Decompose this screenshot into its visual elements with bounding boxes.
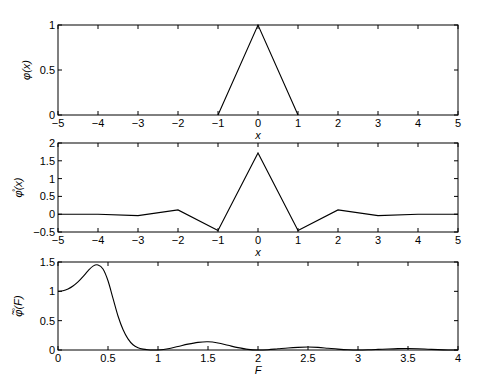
x-tick-label: 4 bbox=[415, 117, 421, 129]
x-tick-label: 1 bbox=[295, 234, 301, 246]
axes-frame bbox=[58, 143, 458, 232]
x-tick-label: −4 bbox=[92, 117, 105, 129]
x-tick-label: 0 bbox=[255, 234, 261, 246]
series-line-phi bbox=[218, 25, 298, 115]
x-axis-label: x bbox=[254, 129, 261, 141]
x-tick-label: 3 bbox=[355, 352, 361, 364]
x-tick-label: 1 bbox=[295, 117, 301, 129]
series-line-phi-ring-tilde bbox=[58, 265, 458, 350]
y-axis-label: φ̊(x) bbox=[12, 177, 24, 197]
y-tick-label: 0 bbox=[49, 344, 55, 356]
y-tick-label: 0.5 bbox=[40, 315, 55, 327]
y-tick-label: 1.5 bbox=[40, 155, 55, 167]
y-tick-label: 1 bbox=[49, 173, 55, 185]
y-tick-label: 0 bbox=[49, 109, 55, 121]
y-axis-label: φ̊̃(F) bbox=[12, 295, 24, 317]
x-tick-label: 0 bbox=[255, 117, 261, 129]
subplot-phi: −5−4−3−2−101234500.51xφ(x) bbox=[20, 19, 461, 141]
x-tick-label: 5 bbox=[455, 117, 461, 129]
y-tick-label: 1.5 bbox=[40, 256, 55, 268]
x-tick-label: 3.5 bbox=[400, 352, 415, 364]
subplot-phi-ring-tilde: 00.511.522.533.5400.511.5Fφ̊̃(F) bbox=[12, 256, 461, 376]
x-tick-label: −1 bbox=[212, 234, 225, 246]
x-tick-label: −3 bbox=[132, 234, 145, 246]
x-tick-label: 2.5 bbox=[300, 352, 315, 364]
x-tick-label: 5 bbox=[455, 234, 461, 246]
y-tick-label: 0 bbox=[49, 208, 55, 220]
y-tick-label: 2 bbox=[49, 137, 55, 149]
x-tick-label: 4 bbox=[415, 234, 421, 246]
subplot-phi-ring: −5−4−3−2−1012345−0.500.511.52xφ̊(x) bbox=[12, 137, 461, 258]
x-axis-label: F bbox=[255, 364, 263, 376]
series-line-phi-ring bbox=[58, 153, 458, 231]
x-tick-label: 0.5 bbox=[100, 352, 115, 364]
x-tick-label: 2 bbox=[335, 234, 341, 246]
y-tick-label: −0.5 bbox=[33, 226, 55, 238]
x-tick-label: 1.5 bbox=[200, 352, 215, 364]
y-tick-label: 0.5 bbox=[40, 190, 55, 202]
y-tick-label: 0.5 bbox=[40, 64, 55, 76]
x-tick-label: 1 bbox=[155, 352, 161, 364]
x-axis-label: x bbox=[254, 246, 261, 258]
axes-frame bbox=[58, 25, 458, 115]
x-tick-label: −2 bbox=[172, 117, 185, 129]
x-tick-label: 0 bbox=[55, 352, 61, 364]
x-tick-label: −2 bbox=[172, 234, 185, 246]
x-tick-label: 2 bbox=[335, 117, 341, 129]
x-tick-label: 3 bbox=[375, 117, 381, 129]
y-axis-label: φ(x) bbox=[20, 60, 32, 80]
figure: −5−4−3−2−101234500.51xφ(x) −5−4−3−2−1012… bbox=[0, 0, 481, 389]
x-tick-label: −4 bbox=[92, 234, 105, 246]
y-tick-label: 1 bbox=[49, 19, 55, 31]
y-tick-label: 1 bbox=[49, 285, 55, 297]
x-tick-label: 2 bbox=[255, 352, 261, 364]
axes-frame bbox=[58, 262, 458, 350]
x-tick-label: 3 bbox=[375, 234, 381, 246]
x-tick-label: −3 bbox=[132, 117, 145, 129]
x-tick-label: −1 bbox=[212, 117, 225, 129]
x-tick-label: 4 bbox=[455, 352, 461, 364]
